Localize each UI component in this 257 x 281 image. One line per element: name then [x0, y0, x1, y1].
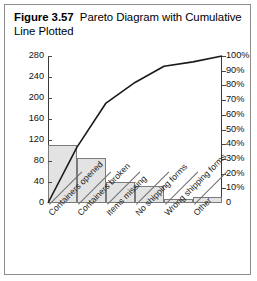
right-axis-tick-label: 60% — [226, 110, 244, 119]
right-axis: 010%20%30%40%50%60%70%80%90%100% — [226, 56, 257, 203]
right-axis-tick-label: 70% — [226, 95, 244, 104]
left-axis-tick — [48, 140, 52, 141]
right-axis-tick-label: 80% — [226, 81, 244, 90]
figure-number: Figure 3.57 — [14, 11, 74, 23]
right-axis-tick-label: 50% — [226, 125, 244, 134]
left-axis-tick-label: 80 — [34, 156, 44, 165]
right-axis-tick-label: 10% — [226, 184, 244, 193]
right-axis-tick — [222, 188, 226, 189]
right-axis-tick — [222, 100, 226, 101]
right-axis-tick-label: 30% — [226, 154, 244, 163]
right-axis-tick-label: 90% — [226, 66, 244, 75]
left-axis-tick — [48, 56, 52, 57]
right-axis-tick — [222, 71, 226, 72]
left-axis-tick-label: 240 — [29, 72, 44, 81]
left-axis-tick-label: 0 — [39, 198, 44, 207]
left-axis-tick — [48, 161, 52, 162]
left-axis-tick-label: 160 — [29, 114, 44, 123]
right-axis-tick-label: 40% — [226, 140, 244, 149]
right-axis-tick — [222, 115, 226, 116]
figure-caption: Figure 3.57 Pareto Diagram with Cumulati… — [14, 10, 242, 38]
right-axis-tick — [222, 144, 226, 145]
left-axis-tick — [48, 119, 52, 120]
right-axis-tick-label: 0 — [226, 198, 231, 207]
left-axis-tick — [48, 182, 52, 183]
left-axis-tick — [48, 77, 52, 78]
right-axis-tick — [222, 159, 226, 160]
left-axis-tick-label: 40 — [34, 177, 44, 186]
plot-area: 04080120160200240280 010%20%30%40%50%60%… — [48, 56, 222, 203]
right-axis-tick-label: 20% — [226, 169, 244, 178]
right-axis-tick — [222, 174, 226, 175]
left-axis: 04080120160200240280 — [10, 56, 44, 203]
right-axis-tick — [222, 56, 226, 57]
left-axis-tick-label: 200 — [29, 93, 44, 102]
left-axis-tick — [48, 98, 52, 99]
left-axis-tick-label: 120 — [29, 135, 44, 144]
right-axis-tick — [222, 130, 226, 131]
figure-container: Figure 3.57 Pareto Diagram with Cumulati… — [4, 4, 251, 275]
right-axis-tick — [222, 85, 226, 86]
cumulative-line-svg — [48, 56, 222, 203]
right-axis-tick-label: 100% — [226, 51, 250, 60]
left-axis-tick-label: 280 — [29, 51, 44, 60]
cumulative-line — [48, 56, 222, 203]
